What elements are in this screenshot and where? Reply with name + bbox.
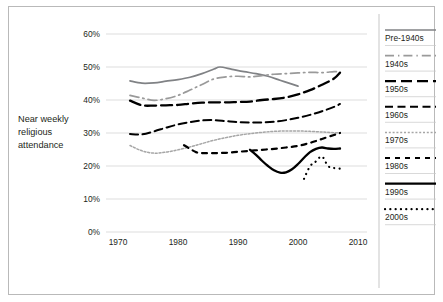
series-line-1990s — [250, 148, 340, 173]
y-axis-title-line: Near weekly — [18, 114, 69, 124]
y-axis-tick-labels: 0%10%20%30%40%50%60% — [83, 29, 100, 237]
legend-label: 1960s — [385, 110, 408, 120]
legend-label: 1950s — [385, 84, 408, 94]
y-axis-title: Near weeklyreligiousattendance — [18, 114, 69, 150]
x-tick-label: 1980 — [169, 237, 188, 247]
series-line-1980s — [184, 133, 340, 153]
y-tick-label: 30% — [83, 128, 100, 138]
legend-label: 1970s — [385, 135, 408, 145]
legend-label: 2000s — [385, 212, 408, 222]
legend-label: 1990s — [385, 187, 408, 197]
y-tick-label: 60% — [83, 29, 100, 39]
legend-label: 1940s — [385, 59, 408, 69]
y-axis-title-line: religious — [18, 127, 53, 137]
series-line-pre-1940s — [130, 67, 298, 86]
series-line-1940s — [130, 72, 340, 101]
x-tick-label: 2000 — [289, 237, 308, 247]
series-line-2000s — [304, 156, 340, 179]
y-tick-label: 40% — [83, 95, 100, 105]
y-axis-title-line: attendance — [18, 140, 63, 150]
series-line-1950s — [130, 73, 340, 106]
series-line-1960s — [130, 104, 340, 135]
x-tick-label: 1990 — [229, 237, 248, 247]
y-tick-label: 0% — [88, 227, 101, 237]
y-tick-label: 50% — [83, 62, 100, 72]
line-chart: 0%10%20%30%40%50%60% 1970198019902000201… — [0, 0, 443, 302]
legend-label: Pre-1940s — [385, 33, 424, 43]
x-tick-label: 2010 — [349, 237, 368, 247]
series-lines — [130, 67, 340, 179]
series-line-1970s — [130, 131, 340, 153]
y-tick-label: 20% — [83, 161, 100, 171]
x-tick-label: 1970 — [109, 237, 128, 247]
chart-figure: 0%10%20%30%40%50%60% 1970198019902000201… — [0, 0, 443, 302]
x-axis-tick-labels: 19701980199020002010 — [109, 237, 368, 247]
y-tick-label: 10% — [83, 194, 100, 204]
legend-label: 1980s — [385, 161, 408, 171]
chart-legend: Pre-1940s1940s1950s1960s1970s1980s1990s2… — [379, 14, 436, 288]
